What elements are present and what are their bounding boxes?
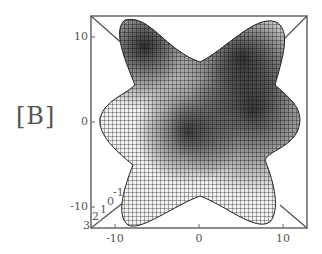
z-tick-2: 2 [92, 210, 99, 223]
x-tick-neg10: -10 [100, 232, 130, 245]
surface-plot [0, 0, 322, 254]
x-tick-10: 10 [268, 232, 298, 245]
y-tick-10: 10 [64, 30, 88, 43]
y-tick-0: 0 [64, 115, 88, 128]
z-tick-3: 3 [83, 219, 90, 232]
z-tick-neg1: -1 [113, 186, 124, 199]
y-tick-neg10: -10 [64, 200, 88, 213]
z-tick-1: 1 [100, 203, 107, 216]
x-tick-0: 0 [184, 232, 214, 245]
